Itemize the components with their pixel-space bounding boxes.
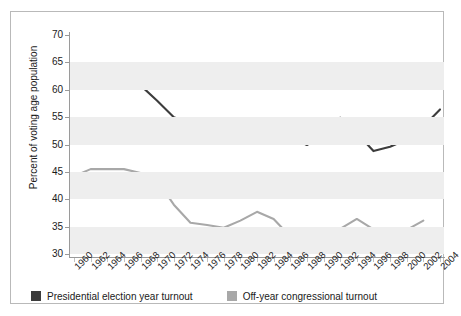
legend-swatch-off-year: [227, 291, 237, 301]
y-axis-title: Percent of voting age population: [28, 18, 39, 218]
y-tick: [65, 172, 70, 173]
legend-swatch-presidential: [31, 291, 41, 301]
chart-frame: 303540455055606570 Percent of voting age…: [10, 11, 444, 304]
y-tick: [65, 227, 70, 228]
y-tick: [65, 145, 70, 146]
y-tick: [65, 90, 70, 91]
chart-legend: Presidential election year turnout Off-y…: [31, 287, 431, 305]
grid-band: [70, 172, 444, 199]
grid-band: [70, 117, 444, 144]
grid-bands: [70, 35, 444, 254]
legend-item-presidential: Presidential election year turnout: [31, 291, 193, 302]
legend-item-off-year: Off-year congressional turnout: [227, 291, 377, 302]
y-tick-label: 35: [23, 222, 63, 232]
y-axis-tick-labels: 303540455055606570: [15, 12, 63, 292]
y-tick-label: 30: [23, 249, 63, 259]
legend-label-off-year: Off-year congressional turnout: [243, 291, 377, 302]
grid-band: [70, 62, 444, 89]
y-tick: [65, 35, 70, 36]
grid-band: [70, 227, 444, 254]
y-tick: [65, 199, 70, 200]
legend-label-presidential: Presidential election year turnout: [47, 291, 193, 302]
y-tick: [65, 62, 70, 63]
plot-area: [70, 35, 444, 254]
y-tick: [65, 254, 70, 255]
y-tick: [65, 117, 70, 118]
